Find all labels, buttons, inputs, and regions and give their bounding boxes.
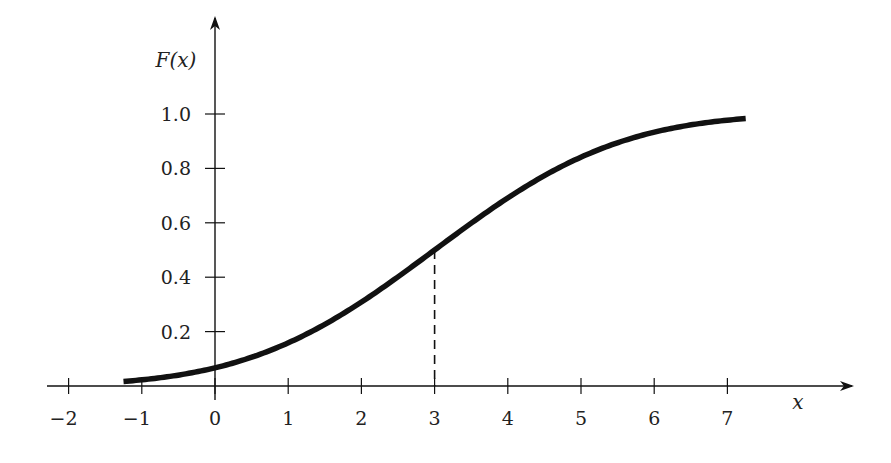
x-tick-label: −2	[50, 407, 78, 429]
x-tick-label: 4	[502, 407, 514, 429]
cdf-chart: −2−101234567 0.20.40.60.81.0 xF(x)	[0, 0, 891, 463]
x-tick-label: 2	[355, 407, 367, 429]
x-tick-label: 0	[209, 407, 221, 429]
y-tick-label: 0.8	[161, 157, 191, 179]
x-tick-label: −1	[123, 407, 151, 429]
x-tick-label: 7	[721, 407, 733, 429]
x-axis-label: x	[792, 390, 803, 414]
y-axis-label: F(x)	[155, 48, 197, 72]
y-axis: 0.20.40.60.81.0	[161, 18, 225, 400]
x-tick-label: 1	[282, 407, 294, 429]
y-tick-label: 0.2	[161, 321, 191, 343]
y-tick-label: 1.0	[161, 103, 191, 125]
x-tick-label: 6	[648, 407, 660, 429]
y-tick-label: 0.4	[161, 266, 191, 288]
y-tick-label: 0.6	[161, 212, 191, 234]
x-axis: −2−101234567	[47, 378, 852, 429]
x-tick-label: 3	[429, 407, 441, 429]
x-tick-label: 5	[575, 407, 587, 429]
